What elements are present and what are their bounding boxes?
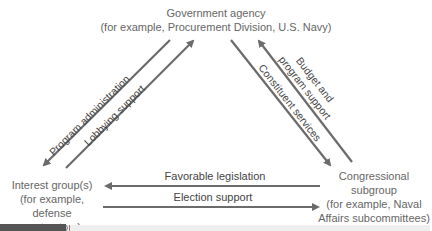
caption-label-block — [0, 224, 66, 231]
edge-lobbying-support: Lobbying support — [66, 41, 193, 168]
caption-bar — [0, 224, 432, 231]
iron-triangle-diagram: Program administration Lobbying support … — [0, 0, 432, 231]
caption-strip — [70, 225, 430, 231]
label-favorable-legislation: Favorable legislation — [165, 170, 266, 182]
label-election-support: Election support — [174, 191, 253, 203]
edge-election-support: Election support — [103, 191, 318, 207]
edge-budget-program-support: Budget and program support — [259, 41, 352, 162]
edge-favorable-legislation: Favorable legislation — [106, 170, 320, 186]
edge-program-administration: Program administration — [44, 40, 170, 165]
